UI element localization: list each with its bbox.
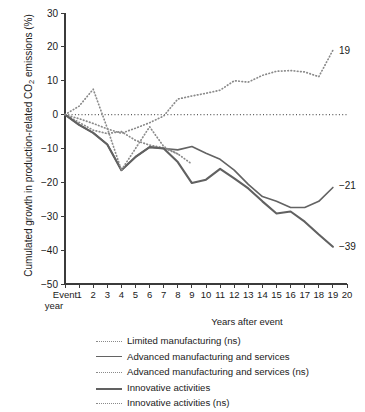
- legend-swatch-dotted-icon: [96, 398, 122, 408]
- series-line-3: [65, 115, 333, 247]
- x-tick-label: 12: [229, 289, 240, 300]
- x-tick-label-origin-line2: year: [45, 300, 63, 311]
- x-tick-label: 1: [76, 289, 81, 300]
- legend-item-2[interactable]: Advanced manufacturing and services (ns): [96, 364, 358, 380]
- x-axis-ticks: Eventyear1234567891011121314151617181920: [45, 284, 353, 311]
- x-tick-label: 20: [342, 289, 353, 300]
- series-paths-group: [65, 50, 333, 246]
- x-tick-label: 8: [175, 289, 180, 300]
- y-tick-label: −20: [41, 177, 58, 188]
- x-tick-label: 4: [119, 289, 124, 300]
- x-tick-label: 11: [215, 289, 225, 300]
- x-axis-title: Years after event: [211, 316, 283, 327]
- x-tick-label-origin-line1: Event: [53, 289, 78, 300]
- legend-swatch-dotted-icon: [96, 336, 122, 346]
- x-tick-label: 9: [189, 289, 194, 300]
- series-end-labels: 19−21−39: [339, 45, 356, 252]
- x-tick-label: 6: [147, 289, 152, 300]
- x-tick-label: 16: [285, 289, 296, 300]
- y-tick-label: 30: [47, 8, 59, 19]
- x-tick-label: 5: [133, 289, 138, 300]
- legend-label-2: Advanced manufacturing and services (ns): [127, 367, 309, 377]
- y-tick-label: −30: [41, 211, 58, 222]
- legend-swatch-solid-thin-icon: [96, 351, 122, 361]
- legend-swatch-solid-thick-icon: [96, 383, 122, 393]
- y-tick-label: 20: [47, 41, 59, 52]
- legend-item-4[interactable]: Innovative activities (ns): [96, 395, 358, 411]
- x-tick-label: 19: [328, 289, 339, 300]
- legend-item-3[interactable]: Innovative activities: [96, 380, 358, 396]
- x-tick-label: 18: [314, 289, 325, 300]
- legend-swatch-dotted-icon: [96, 367, 122, 377]
- legend-label-0: Limited manufacturing (ns): [127, 336, 241, 346]
- y-tick-label: −40: [41, 245, 58, 256]
- x-tick-label: 14: [257, 289, 268, 300]
- x-tick-label: 13: [243, 289, 254, 300]
- legend-item-0[interactable]: Limited manufacturing (ns): [96, 333, 358, 349]
- chart-legend: Limited manufacturing (ns) Advanced manu…: [96, 333, 358, 411]
- series-end-label-1: −21: [339, 180, 356, 191]
- legend-label-1: Advanced manufacturing and services: [127, 352, 290, 362]
- legend-label-4: Innovative activities (ns): [127, 398, 229, 408]
- y-tick-label: −10: [41, 143, 58, 154]
- series-line-0: [65, 50, 333, 133]
- x-tick-label: 2: [91, 289, 96, 300]
- series-end-label-0: 19: [339, 45, 351, 56]
- x-tick-label: 15: [271, 289, 282, 300]
- y-tick-label: −50: [41, 279, 58, 290]
- x-tick-label: 10: [201, 289, 212, 300]
- y-tick-label: 0: [52, 109, 58, 120]
- legend-item-1[interactable]: Advanced manufacturing and services: [96, 349, 358, 365]
- series-end-label-2: −39: [339, 241, 356, 252]
- x-tick-label: 17: [299, 289, 310, 300]
- y-tick-label: 10: [47, 75, 59, 86]
- x-tick-label: 7: [161, 289, 166, 300]
- chart-figure: Cumulated growth in production-related C…: [0, 0, 365, 412]
- legend-label-3: Innovative activities: [127, 383, 210, 393]
- x-tick-label: 3: [105, 289, 110, 300]
- y-axis-ticks: 3020100−10−20−30−40−50: [41, 8, 65, 290]
